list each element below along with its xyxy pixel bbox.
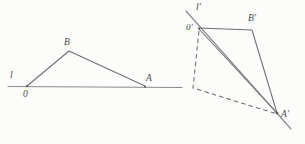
label-vertex-A: A [146,74,152,84]
right-diagram-group [186,11,291,129]
label-apex-B-prime: B' [248,14,256,24]
chord-O-prime-A-prime [199,29,277,113]
vertex-A-prime [276,112,279,115]
vertex-A [144,86,146,88]
label-origin-0-prime: 0' [186,23,193,32]
figure-canvas: l 0 B A l' 0' B' A' [0,0,305,144]
label-origin-0: 0 [23,90,28,100]
geometry-figure [0,0,305,144]
vertex-O [26,85,28,87]
line-l [8,87,182,88]
label-line-l-prime: l' [196,3,201,13]
left-diagram-group [8,51,182,88]
vertex-O-prime [198,27,200,29]
label-apex-B: B [64,38,70,48]
label-line-l: l [10,71,13,81]
triangle-OBA [27,51,145,86]
label-vertex-A-prime: A' [281,110,289,120]
